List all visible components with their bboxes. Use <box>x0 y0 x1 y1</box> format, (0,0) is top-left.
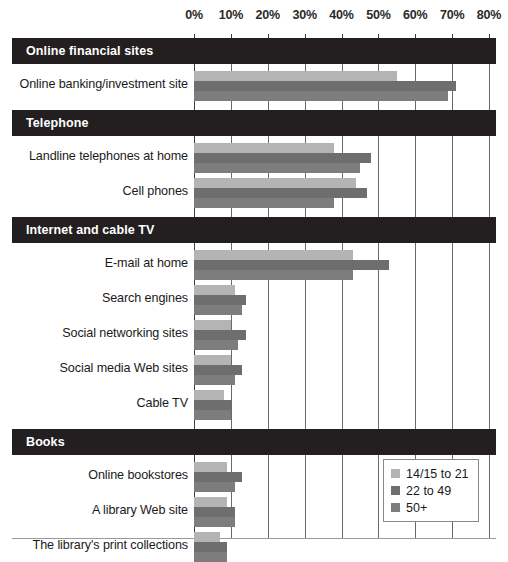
bar <box>194 91 448 101</box>
x-axis-tick-label: 0% <box>185 8 203 22</box>
section-header: Telephone <box>12 110 496 136</box>
x-axis-tick-label: 40% <box>329 8 353 22</box>
bar <box>194 472 242 482</box>
category-label: Social networking sites <box>8 326 188 340</box>
section-header: Internet and cable TV <box>12 217 496 243</box>
bar <box>194 482 235 492</box>
bar <box>194 400 231 410</box>
bar <box>194 542 227 552</box>
bar <box>194 375 235 385</box>
bar <box>194 497 227 507</box>
section-header-label: Books <box>12 435 65 449</box>
bar <box>194 552 227 562</box>
bar <box>194 270 353 280</box>
x-axis-tick-label: 30% <box>292 8 316 22</box>
legend-swatch-icon <box>391 503 400 512</box>
bar <box>194 178 356 188</box>
legend-swatch-icon <box>391 469 400 478</box>
bar <box>194 305 242 315</box>
x-axis-tick-label: 50% <box>366 8 390 22</box>
bar <box>194 340 238 350</box>
chart-legend: 14/15 to 2122 to 4950+ <box>383 459 479 522</box>
bar <box>194 198 334 208</box>
bar <box>194 188 367 198</box>
category-label: The library's print collections <box>8 538 188 552</box>
section-header: Books <box>12 429 496 455</box>
bar <box>194 532 220 542</box>
category-label: Social media Web sites <box>8 361 188 375</box>
bar <box>194 153 371 163</box>
category-label: Cable TV <box>8 396 188 410</box>
section-header-label: Internet and cable TV <box>12 223 155 237</box>
legend-label: 22 to 49 <box>406 484 451 498</box>
bar <box>194 365 242 375</box>
category-label: Online bookstores <box>8 468 188 482</box>
x-axis-tick-label: 70% <box>440 8 464 22</box>
x-axis-tick-label: 80% <box>477 8 501 22</box>
bar <box>194 295 246 305</box>
bar <box>194 320 231 330</box>
bar <box>194 81 456 91</box>
bar <box>194 143 334 153</box>
bar <box>194 462 227 472</box>
bar <box>194 410 231 420</box>
bar <box>194 330 246 340</box>
legend-item: 50+ <box>391 499 469 516</box>
category-label: Online banking/investment site <box>8 77 188 91</box>
category-label: E-mail at home <box>8 256 188 270</box>
legend-item: 14/15 to 21 <box>391 465 469 482</box>
x-axis-tick-label: 10% <box>219 8 243 22</box>
bar <box>194 285 235 295</box>
bar <box>194 71 397 81</box>
bar <box>194 250 353 260</box>
legend-item: 22 to 49 <box>391 482 469 499</box>
x-axis-tick-label: 20% <box>256 8 280 22</box>
bar <box>194 507 235 517</box>
legend-swatch-icon <box>391 486 400 495</box>
legend-label: 14/15 to 21 <box>406 467 469 481</box>
section-header-label: Online financial sites <box>12 44 153 58</box>
x-axis-tick-labels: 0%10%20%30%40%50%60%70%80% <box>0 8 508 30</box>
category-label: Landline telephones at home <box>8 149 188 163</box>
section-header-label: Telephone <box>12 116 88 130</box>
bar <box>194 163 360 173</box>
legend-label: 50+ <box>406 501 427 515</box>
bar <box>194 260 389 270</box>
bar <box>194 355 231 365</box>
category-label: A library Web site <box>8 503 188 517</box>
section-header: Online financial sites <box>12 38 496 64</box>
category-label: Search engines <box>8 291 188 305</box>
bar <box>194 517 235 527</box>
x-axis-tick-label: 60% <box>403 8 427 22</box>
category-label: Cell phones <box>8 184 188 198</box>
bar <box>194 390 224 400</box>
